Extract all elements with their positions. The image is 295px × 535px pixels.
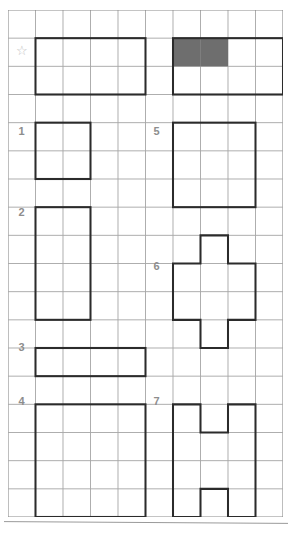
shape-label-3: 3: [8, 334, 35, 361]
shape-label-1: 1: [8, 118, 35, 145]
header-text-fragment: [0, 0, 295, 8]
shape-label-4: 4: [8, 388, 35, 415]
shape-label-7: 7: [143, 388, 170, 415]
bottom-divider: [4, 521, 288, 524]
star-icon: ☆: [8, 37, 35, 64]
worksheet-page: ☆1234567: [0, 0, 295, 535]
grid-area: ☆1234567: [8, 10, 283, 517]
shape-label-6: 6: [143, 253, 170, 280]
shape-label-2: 2: [8, 199, 35, 226]
shape-label-5: 5: [143, 118, 170, 145]
